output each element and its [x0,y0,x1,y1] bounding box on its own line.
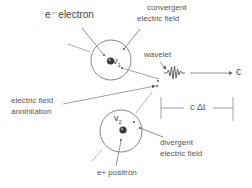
positron-particle-icon [119,126,126,133]
wavelet-label: wavelet [144,50,171,60]
divergent-label-line1: divergent [160,138,193,148]
field-line-top-to-wavelet [122,68,159,79]
divergent-leader-line [140,128,163,137]
positron-label: e+ positron [97,168,137,178]
v1-subscript: 1 [118,62,121,68]
left-field-line [68,44,90,52]
v2-subscript: 2 [119,119,122,125]
diagram-graphics [0,0,252,188]
c-delta-t-label: c Δt [190,102,206,113]
convergent-leader-line [124,29,140,49]
annihilation-point [156,85,158,87]
field-point [120,139,122,141]
electron-label: e⁻ electron [45,9,94,22]
positron-leader-line [116,141,121,166]
convergent-label-line2: electric field [137,14,179,24]
left-lower-field-line [92,150,102,161]
annihilation-point [157,80,159,82]
field-point [133,121,135,123]
divergent-label-line2: electric field [160,149,202,159]
annihilation-label-line2: annihilation [11,107,51,117]
v1-label: v1 [113,56,121,69]
field-line-bottom-to-wavelet [136,92,152,113]
wavelet-icon [164,66,185,79]
annihilation-label-line1: electric field [11,96,53,106]
wavelet-leader-line [160,62,166,69]
annihilation-leader-line [63,86,155,104]
convergent-label-line1: convergent [147,3,187,13]
v2-label: v2 [114,113,122,126]
diagram-canvas: e⁻ electron convergent electric field wa… [0,0,252,188]
speed-c-label: c [236,66,241,79]
